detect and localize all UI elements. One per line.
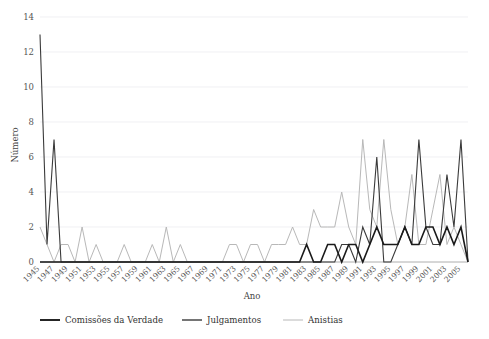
y-tick-label: 8: [29, 117, 34, 127]
legend-label: Julgamentos: [206, 315, 261, 325]
y-tick-label: 12: [23, 47, 34, 57]
gridlines: [40, 17, 468, 227]
series-lines: [40, 35, 468, 263]
x-axis-ticks: 1945194719491951195319551957195919611963…: [21, 264, 462, 284]
y-tick-label: 6: [29, 152, 34, 162]
y-tick-label: 10: [23, 82, 34, 92]
y-tick-label: 14: [23, 12, 34, 22]
y-tick-label: 2: [29, 222, 34, 232]
series-line-anistias: [40, 140, 468, 263]
x-axis-label: Ano: [243, 291, 261, 301]
legend-label: Comissões da Verdade: [65, 315, 163, 325]
chart-canvas: 02468101214 1945194719491951195319551957…: [0, 0, 489, 339]
y-axis-ticks: 02468101214: [23, 12, 34, 267]
chart-legend: Comissões da VerdadeJulgamentosAnistias: [40, 315, 343, 325]
legend-label: Anistias: [307, 315, 343, 325]
line-chart: 02468101214 1945194719491951195319551957…: [0, 0, 489, 339]
y-tick-label: 4: [29, 187, 34, 197]
y-axis-label: Número: [10, 127, 20, 162]
x-tick-label: 2005: [442, 264, 462, 284]
